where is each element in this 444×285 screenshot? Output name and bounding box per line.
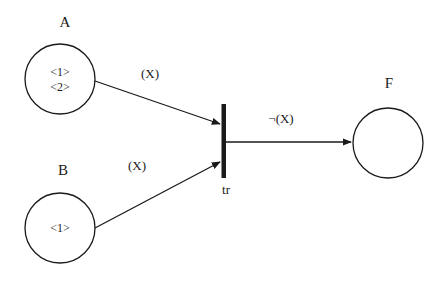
arc-b-label: (X) [128,158,146,173]
arc-f-label: ¬(X) [268,111,293,126]
arc-a-arrow [95,81,220,124]
place-b-token-1: <1> [50,221,70,235]
place-a-label: A [60,14,71,30]
arc-b-arrow [95,162,220,228]
place-f[interactable]: F [353,75,423,178]
place-a-token-1: <1> [50,65,70,79]
arc-a-label: (X) [141,66,159,81]
place-a[interactable]: A <1> <2> [25,14,95,114]
transition-tr[interactable]: tr [222,104,231,197]
petri-net-diagram: A <1> <2> B <1> F tr (X) (X) ¬(X) [0,0,444,285]
place-f-label: F [385,75,393,91]
place-a-circle [25,44,95,114]
place-b-label: B [58,162,68,178]
place-a-token-2: <2> [50,80,70,94]
place-f-circle [353,108,423,178]
place-b[interactable]: B <1> [25,162,95,263]
arc-tr-to-f[interactable]: ¬(X) [226,111,351,142]
arc-b-to-tr[interactable]: (X) [95,158,220,228]
transition-bar [222,104,227,178]
transition-tr-label: tr [222,182,231,197]
arc-a-to-tr[interactable]: (X) [95,66,220,124]
